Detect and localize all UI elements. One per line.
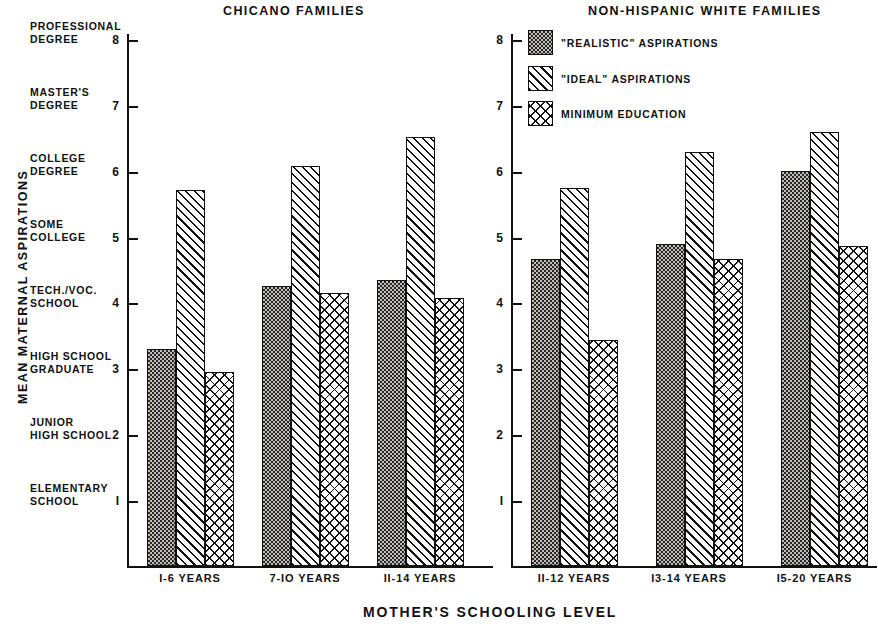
tick-label-1: I <box>101 494 119 508</box>
bar-white-13-14-realistic <box>656 244 685 566</box>
edu-label-line: HIGH SCHOOL <box>30 429 112 442</box>
bar-chicano-1-6-minimum <box>205 372 234 566</box>
bar-chicano-7-10-minimum <box>320 293 349 566</box>
edu-label-line: COLLEGE <box>30 152 86 165</box>
tick-6 <box>129 172 138 174</box>
tick-2-right <box>513 435 522 437</box>
edu-label-line: COLLEGE <box>30 231 86 244</box>
tick-label-3: 3 <box>101 362 119 376</box>
tick-label-1-right: I <box>485 494 503 508</box>
tick-8-right <box>513 40 522 42</box>
edu-label-line: SOME <box>30 218 86 231</box>
bar-white-11-12-realistic <box>531 259 560 566</box>
bar-white-11-12-ideal <box>560 188 589 566</box>
tick-label-5: 5 <box>101 231 119 245</box>
left-panel-y-axis <box>127 34 129 568</box>
tick-label-5-right: 5 <box>485 231 503 245</box>
bar-chicano-1-6-realistic <box>147 349 176 566</box>
legend-label-realistic: "REALISTIC" ASPIRATIONS <box>561 37 718 49</box>
tick-3 <box>129 369 138 371</box>
bar-white-13-14-ideal <box>685 152 714 566</box>
tick-7 <box>129 106 138 108</box>
tick-label-7-right: 7 <box>485 99 503 113</box>
tick-label-4-right: 4 <box>485 296 503 310</box>
tick-label-6-right: 6 <box>485 165 503 179</box>
tick-label-2: 2 <box>101 428 119 442</box>
legend-label-ideal: "IDEAL" ASPIRATIONS <box>561 73 691 85</box>
crosshatch-swatch-icon <box>528 101 553 126</box>
right-panel-title: NON-HISPANIC WHITE FAMILIES <box>588 4 821 18</box>
bar-white-11-12-minimum <box>589 340 618 566</box>
edu-label-elementary-school: ELEMENTARY SCHOOL <box>30 482 108 507</box>
tick-label-8-right: 8 <box>485 33 503 47</box>
right-panel-y-axis <box>511 34 513 568</box>
x-category-chicano-2: 7-IO YEARS <box>250 572 360 584</box>
edu-label-tech-voc-school: TECH./VOC. SCHOOL <box>30 284 97 309</box>
edu-label-line: TECH./VOC. <box>30 284 97 297</box>
edu-label-line: HIGH SCHOOL <box>30 350 112 363</box>
x-category-white-3: I5-20 YEARS <box>757 572 872 584</box>
tick-3-right <box>513 369 522 371</box>
legend-label-minimum: MINIMUM EDUCATION <box>561 108 686 120</box>
edu-label-line: MASTER'S <box>30 86 89 99</box>
tick-label-2-right: 2 <box>485 428 503 442</box>
bar-white-15-20-realistic <box>781 171 810 566</box>
bar-chicano-11-14-minimum <box>435 298 464 566</box>
edu-label-junior-high-school: JUNIOR HIGH SCHOOL <box>30 416 112 441</box>
diagonal-hatch-swatch-icon <box>528 66 553 91</box>
dark-dotted-swatch-icon <box>528 30 553 55</box>
edu-label-some-college: SOME COLLEGE <box>30 218 86 243</box>
bar-white-15-20-minimum <box>839 246 868 566</box>
tick-label-3-right: 3 <box>485 362 503 376</box>
tick-5 <box>129 238 138 240</box>
edu-label-line: PROFESSIONAL <box>30 20 121 33</box>
tick-5-right <box>513 238 522 240</box>
edu-label-line: GRADUATE <box>30 363 112 376</box>
figure-root: CHICANO FAMILIES NON-HISPANIC WHITE FAMI… <box>0 0 878 631</box>
x-category-chicano-3: II-14 YEARS <box>365 572 475 584</box>
edu-label-line: DEGREE <box>30 99 89 112</box>
bar-chicano-1-6-ideal <box>176 190 205 566</box>
y-axis-title: MEAN MATERNAL ASPIRATIONS <box>16 170 30 404</box>
tick-label-8: 8 <box>101 33 119 47</box>
legend-item-realistic: "REALISTIC" ASPIRATIONS <box>528 30 718 55</box>
bar-white-13-14-minimum <box>714 259 743 566</box>
edu-label-line: JUNIOR <box>30 416 112 429</box>
edu-label-line: ELEMENTARY <box>30 482 108 495</box>
tick-4 <box>129 303 138 305</box>
left-panel-x-axis <box>127 566 493 568</box>
tick-label-4: 4 <box>101 296 119 310</box>
x-category-chicano-1: I-6 YEARS <box>135 572 245 584</box>
tick-8 <box>129 40 138 42</box>
x-category-white-2: I3-14 YEARS <box>634 572 744 584</box>
bar-chicano-11-14-realistic <box>377 280 406 566</box>
tick-6-right <box>513 172 522 174</box>
bar-white-15-20-ideal <box>810 132 839 566</box>
edu-label-college-degree: COLLEGE DEGREE <box>30 152 86 177</box>
legend-item-ideal: "IDEAL" ASPIRATIONS <box>528 66 691 91</box>
tick-1-right <box>513 501 522 503</box>
edu-label-line: DEGREE <box>30 165 86 178</box>
left-panel-title: CHICANO FAMILIES <box>223 4 365 18</box>
bar-chicano-7-10-realistic <box>262 286 291 566</box>
bar-chicano-7-10-ideal <box>291 166 320 566</box>
x-category-white-1: II-12 YEARS <box>519 572 629 584</box>
legend-item-minimum: MINIMUM EDUCATION <box>528 101 686 126</box>
edu-label-line: SCHOOL <box>30 297 97 310</box>
tick-label-6: 6 <box>101 165 119 179</box>
tick-1 <box>129 501 138 503</box>
right-panel-x-axis <box>511 566 877 568</box>
tick-2 <box>129 435 138 437</box>
tick-label-7: 7 <box>101 99 119 113</box>
edu-label-high-school-graduate: HIGH SCHOOL GRADUATE <box>30 350 112 375</box>
tick-4-right <box>513 303 522 305</box>
edu-label-line: SCHOOL <box>30 495 108 508</box>
bar-chicano-11-14-ideal <box>406 137 435 566</box>
x-axis-title: MOTHER'S SCHOOLING LEVEL <box>363 604 617 620</box>
tick-7-right <box>513 106 522 108</box>
edu-label-masters-degree: MASTER'S DEGREE <box>30 86 89 111</box>
